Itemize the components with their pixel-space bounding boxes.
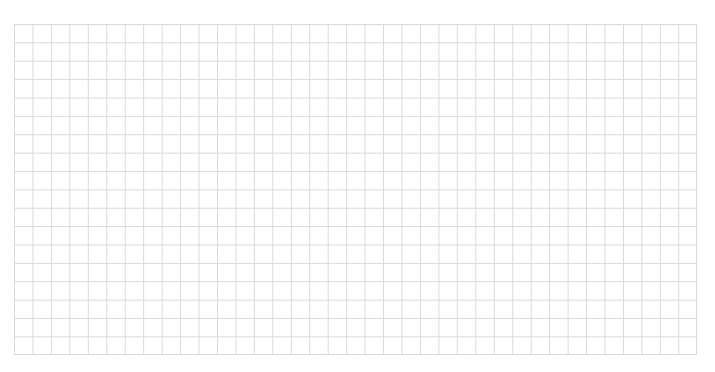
grid-canvas (0, 0, 715, 372)
grid-plot-area (14, 24, 697, 355)
grid-bottom-border (14, 354, 697, 355)
grid-right-border (696, 24, 697, 355)
